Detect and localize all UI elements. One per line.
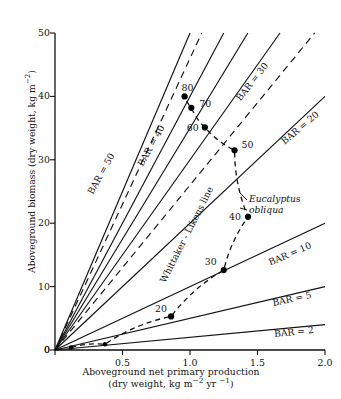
dashed-reference-line-0 xyxy=(55,33,202,350)
x-axis-label: Aboveground net primary production (dry … xyxy=(40,366,302,390)
y-axis-tick-label-50: 50 xyxy=(31,27,50,38)
x-axis-tick-label-2.0: 2.0 xyxy=(311,357,339,368)
data-point-age-60[interactable] xyxy=(202,124,208,130)
x-axis-tick-label-1.0: 1.0 xyxy=(176,357,204,368)
y-axis-label: Aboveground biomass (dry weight, kg m−2) xyxy=(23,47,36,297)
whittaker-likens-line xyxy=(55,33,248,350)
data-point-label-age-60: 60 xyxy=(187,122,199,133)
bar-line-50 xyxy=(55,33,190,350)
y-axis-tick-label-10: 10 xyxy=(31,281,50,292)
data-point-age-80[interactable] xyxy=(182,93,188,99)
data-point-label-age-80: 80 xyxy=(182,82,194,93)
data-point-age-20[interactable] xyxy=(168,313,174,319)
species-annotation-epithet: obliqua xyxy=(249,205,301,216)
x-axis-label-line2: (dry weight, kg m−2 yr −1) xyxy=(40,377,302,389)
y-axis-tick-label-30: 30 xyxy=(31,154,50,165)
species-leader-line xyxy=(240,193,247,210)
figure-container: Aboveground net primary production (dry … xyxy=(0,0,341,399)
x-axis-tick-label-0.5: 0.5 xyxy=(109,357,137,368)
x-axis-tick-label-0: 0 xyxy=(36,344,50,355)
data-point-age-30[interactable] xyxy=(221,267,227,273)
data-point-label-age-30: 30 xyxy=(205,256,217,267)
data-point-label-age-50: 50 xyxy=(242,139,254,150)
data-point-unlabeled[interactable] xyxy=(103,342,108,347)
x-axis-tick-label-1.5: 1.5 xyxy=(244,357,272,368)
y-axis-tick-label-20: 20 xyxy=(31,217,50,228)
data-point-label-age-20: 20 xyxy=(155,303,167,314)
data-point-age-50[interactable] xyxy=(231,147,237,153)
bar-line-40 xyxy=(55,33,224,350)
data-point-age-70[interactable] xyxy=(188,105,194,111)
data-point-label-age-40: 40 xyxy=(229,211,241,222)
species-annotation: Eucalyptus obliqua xyxy=(249,194,301,216)
data-point-label-age-70: 70 xyxy=(199,98,211,109)
y-axis-tick-label-40: 40 xyxy=(31,90,50,101)
data-point-unlabeled[interactable] xyxy=(69,345,74,350)
